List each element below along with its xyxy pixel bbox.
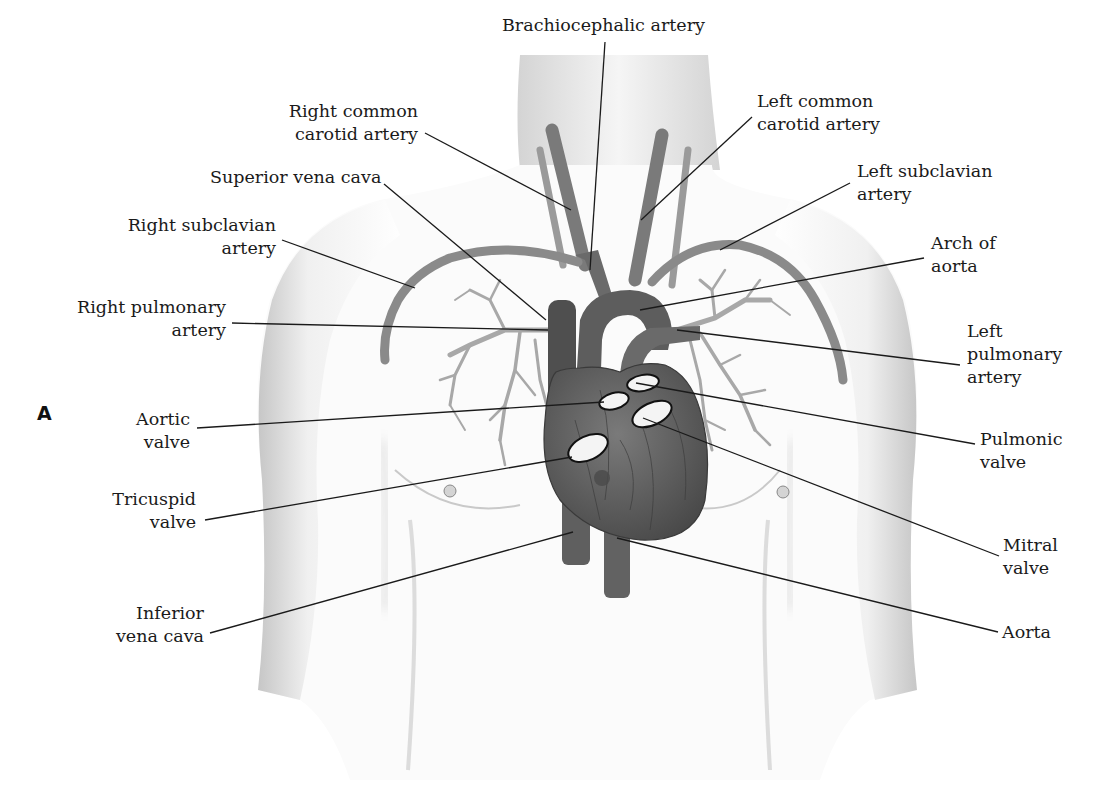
label-inferior-vena-cava: Inferiorvena cava [100,602,204,648]
label-tricuspid-valve: Tricuspidvalve [100,488,196,534]
anatomy-illustration [0,0,1106,801]
label-line: Right pulmonary [60,296,226,319]
label-mitral-valve: Mitralvalve [1003,534,1083,580]
label-line: Aorta [1002,621,1082,644]
label-line: artery [118,237,276,260]
label-line: Brachiocephalic artery [502,14,702,37]
label-line: valve [1003,557,1083,580]
label-line: aorta [931,255,1031,278]
label-left-pulmonary-artery: Leftpulmonaryartery [967,320,1097,389]
label-right-pulmonary-artery: Right pulmonaryartery [60,296,226,342]
label-line: Right common [260,100,418,123]
label-line: Tricuspid [100,488,196,511]
label-line: artery [60,319,226,342]
label-line: Aortic [110,408,190,431]
label-line: artery [857,183,1027,206]
label-pulmonic-valve: Pulmonicvalve [980,428,1080,474]
label-left-common-carotid-artery: Left commoncarotid artery [757,90,917,136]
label-line: valve [980,451,1080,474]
label-right-subclavian-artery: Right subclavianartery [118,214,276,260]
right-nipple [444,485,456,497]
label-left-subclavian-artery: Left subclavianartery [857,160,1027,206]
label-line: Pulmonic [980,428,1080,451]
label-line: vena cava [100,625,204,648]
label-aorta: Aorta [1002,621,1082,644]
heart-anatomy-figure: A Brachiocephalic arteryRight commoncaro… [0,0,1106,801]
label-brachiocephalic-artery: Brachiocephalic artery [502,14,702,37]
label-line: carotid artery [260,123,418,146]
label-superior-vena-cava: Superior vena cava [210,166,376,189]
label-aortic-valve: Aorticvalve [110,408,190,454]
panel-letter: A [37,402,52,424]
label-line: Arch of [931,232,1031,255]
label-right-common-carotid-artery: Right commoncarotid artery [260,100,418,146]
label-arch-of-aorta: Arch ofaorta [931,232,1031,278]
label-line: Left [967,320,1097,343]
label-line: valve [100,511,196,534]
label-line: Right subclavian [118,214,276,237]
label-line: carotid artery [757,113,917,136]
label-line: Left subclavian [857,160,1027,183]
left-nipple [777,486,789,498]
label-line: Superior vena cava [210,166,376,189]
label-line: Inferior [100,602,204,625]
label-line: artery [967,366,1097,389]
label-line: pulmonary [967,343,1097,366]
label-line: Mitral [1003,534,1083,557]
label-line: valve [110,431,190,454]
label-line: Left common [757,90,917,113]
